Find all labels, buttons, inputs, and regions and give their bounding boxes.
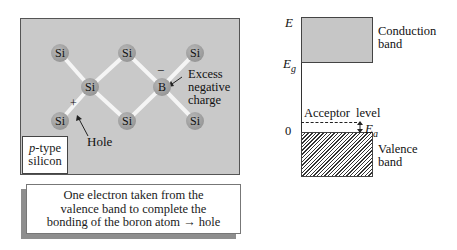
caption-line3: bonding of the boron atom → hole: [27, 216, 240, 230]
conduction-band: [301, 17, 373, 63]
valence-line2: band: [378, 156, 418, 169]
ea-label: Ea: [365, 121, 378, 139]
energy-label-e: E: [285, 15, 293, 31]
energy-label-eg: Eg: [283, 56, 296, 74]
acceptor-level-label: Acceptor level: [304, 107, 380, 120]
conduction-line2: band: [378, 38, 436, 51]
ea-main: E: [365, 121, 373, 136]
atom-si-top-left: Si: [51, 44, 69, 62]
atom-boron: B: [153, 78, 171, 96]
eg-sub: g: [291, 63, 296, 74]
ea-double-arrow-icon: [355, 119, 365, 135]
atom-si-top-right: Si: [186, 44, 204, 62]
conduction-band-label: Conduction band: [378, 25, 436, 51]
plus-sign: +: [70, 97, 77, 110]
atom-si-bottom-right: Si: [186, 112, 204, 130]
hole-arrow-icon: [76, 115, 88, 136]
atom-si-middle: Si: [81, 78, 99, 96]
caption-box: One electron taken from the valence band…: [26, 184, 241, 234]
caption-line1: One electron taken from the: [27, 189, 240, 203]
p-type-silicon-label: p-type silicon: [22, 136, 68, 174]
caption-line2: valence band to complete the: [27, 203, 240, 217]
caption-line3-text: bonding of the boron atom: [47, 215, 180, 229]
caption-hole-text: hole: [199, 215, 221, 229]
p-type-rest: -type: [35, 141, 61, 155]
right-arrow-icon: →: [183, 215, 196, 229]
excess-charge-label: Excess negative charge: [188, 68, 230, 107]
silicon-label: silicon: [23, 155, 67, 168]
energy-label-zero: 0: [285, 125, 291, 138]
eg-main: E: [283, 56, 291, 71]
atom-si-top-center: Si: [118, 44, 136, 62]
valence-band-label: Valence band: [378, 143, 418, 169]
atom-si-bottom-center: Si: [118, 112, 136, 130]
minus-sign: −: [157, 64, 164, 77]
valence-band: [301, 132, 373, 177]
ea-sub: a: [373, 128, 378, 139]
excess-label-line3: charge: [188, 94, 230, 107]
acceptor-level-line: [301, 122, 357, 123]
atom-si-bottom-left: Si: [51, 112, 69, 130]
hole-label: Hole: [87, 135, 112, 148]
